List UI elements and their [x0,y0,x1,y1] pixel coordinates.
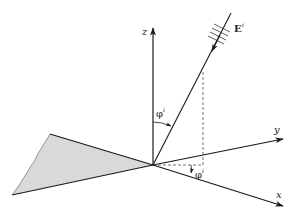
x-axis [153,165,283,206]
incident-field-superscript: i [242,21,244,28]
x-axis-label: x [276,189,282,200]
z-axis-label: z [141,26,148,37]
incident-ray-arrow [212,35,220,51]
azimuth-angle-superscript: i [202,167,204,174]
incident-field-label: E [234,23,242,34]
y-axis-label: y [273,124,280,135]
polar-angle-superscript: i [163,106,165,113]
wedge-diagram: z y x E i φ i φ i [0,0,296,214]
polar-angle-label: φ [156,108,163,119]
wavefront-marks [208,24,230,44]
wedge-shape [12,134,153,195]
polar-angle-arc [153,122,171,126]
azimuth-angle-arc [191,165,192,173]
y-axis [153,139,283,165]
azimuth-angle-label: φ [195,169,202,180]
